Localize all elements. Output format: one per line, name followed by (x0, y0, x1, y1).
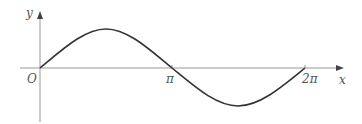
origin-label: O (27, 72, 37, 86)
y-axis-label: y (25, 6, 33, 20)
tick-label-pi: π (165, 72, 175, 86)
sine-graph: y x O π 2π (0, 0, 362, 124)
tick-label-2pi: 2π (301, 72, 319, 86)
y-axis-arrow-icon (37, 11, 43, 19)
x-axis-label: x (339, 73, 346, 87)
x-axis-arrow-icon (336, 65, 344, 71)
